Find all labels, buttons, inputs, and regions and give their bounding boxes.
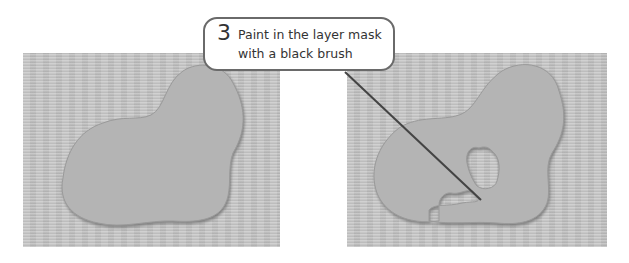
instruction-text: Paint in the layer mask with a black bru… xyxy=(238,25,393,63)
blob-shape-after xyxy=(347,53,607,247)
before-canvas xyxy=(23,53,280,247)
blob-shape-before xyxy=(23,53,280,247)
instruction-callout: 3 Paint in the layer mask with a black b… xyxy=(203,17,395,71)
step-number: 3 xyxy=(217,19,231,47)
after-canvas xyxy=(347,53,607,247)
